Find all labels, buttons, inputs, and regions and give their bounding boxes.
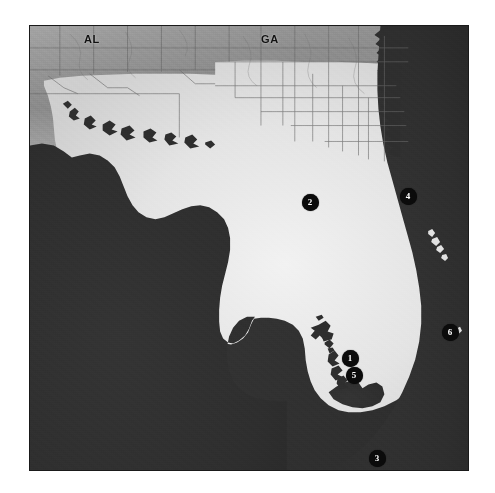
site-marker-6[interactable]: 6 xyxy=(442,324,459,341)
map-frame xyxy=(29,25,469,471)
state-label-al: AL xyxy=(84,33,100,45)
figure-root: AL GA 1 2 3 4 5 6 xyxy=(0,0,495,493)
site-marker-2[interactable]: 2 xyxy=(302,194,319,211)
site-marker-3[interactable]: 3 xyxy=(369,450,386,467)
site-marker-4[interactable]: 4 xyxy=(400,188,417,205)
state-label-ga: GA xyxy=(261,33,279,45)
map-basemap xyxy=(30,26,468,470)
site-marker-1[interactable]: 1 xyxy=(342,350,359,367)
site-marker-5[interactable]: 5 xyxy=(346,367,363,384)
